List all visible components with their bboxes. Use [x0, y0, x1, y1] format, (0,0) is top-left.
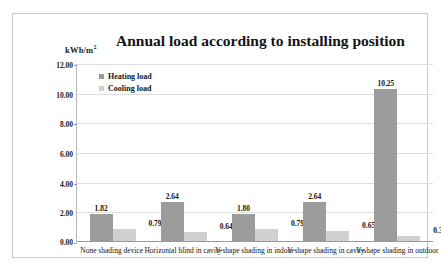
bar-cooling[interactable]: 0.79: [113, 229, 136, 241]
bar-pair: 2.640.64: [161, 64, 207, 241]
chart-title: Annual load according to installing posi…: [88, 32, 433, 50]
bar-value-label: 2.64: [166, 192, 179, 201]
bar-group: 10.250.35: [362, 64, 433, 241]
y-axis-tick-label: 6.00: [29, 150, 73, 159]
x-axis-tick-label: V-shape shading in indoor: [215, 246, 294, 255]
y-axis-tick-label: 10.00: [29, 90, 73, 99]
bar-group: 2.640.64: [148, 64, 219, 241]
x-axis-tick-label: None shading device: [80, 246, 143, 255]
bar-pair: 1.800.79: [232, 64, 278, 241]
bar-group: 1.820.79: [77, 64, 148, 241]
bar-value-label: 0.35: [433, 226, 441, 235]
x-axis-tick-label: V-shape shading in outdoor: [356, 246, 438, 255]
plot-area: 12.0010.008.006.004.002.000.00 Heating l…: [76, 64, 433, 242]
bar-heating[interactable]: 2.64: [161, 202, 184, 241]
bar-value-label: 10.25: [377, 79, 394, 88]
bar-value-label: 1.82: [95, 204, 108, 213]
x-axis-tick-label: Horizontal blind in cavity: [144, 246, 221, 255]
bar-value-label: 2.64: [308, 192, 321, 201]
bar-cooling[interactable]: 0.65: [326, 231, 349, 241]
bar-heating[interactable]: 1.82: [90, 214, 113, 241]
bar-pair: 1.820.79: [90, 64, 136, 241]
bar-pair: 10.250.35: [374, 64, 420, 241]
x-axis-labels: None shading deviceHorizontal blind in c…: [76, 244, 433, 260]
bar-groups: 1.820.792.640.641.800.792.640.6510.250.3…: [77, 64, 433, 241]
x-axis-tick-label: V-shape shading in cavity: [287, 246, 364, 255]
y-axis-tick-label: 2.00: [29, 209, 73, 218]
bar-group: 1.800.79: [219, 64, 290, 241]
bar-pair: 2.640.65: [303, 64, 349, 241]
chart-card: kWh/m2 Annual load according to installi…: [12, 13, 428, 258]
y-axis-tick-label: 0.00: [29, 238, 73, 247]
bar-cooling[interactable]: 0.64: [184, 232, 207, 241]
bar-heating[interactable]: 10.25: [374, 89, 397, 241]
bar-cooling[interactable]: 0.35: [397, 236, 420, 241]
bar-heating[interactable]: 1.80: [232, 214, 255, 241]
y-axis-tick-label: 8.00: [29, 120, 73, 129]
bar-cooling[interactable]: 0.79: [255, 229, 278, 241]
bar-group: 2.640.65: [291, 64, 362, 241]
y-axis-tick-label: 12.00: [29, 61, 73, 70]
y-axis-tick-label: 4.00: [29, 179, 73, 188]
bar-heating[interactable]: 2.64: [303, 202, 326, 241]
bar-value-label: 1.80: [237, 204, 250, 213]
